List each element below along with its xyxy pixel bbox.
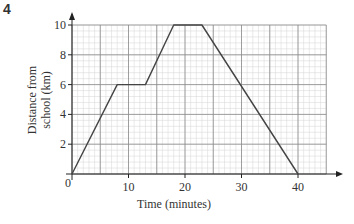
y-axis-label-line: Distance from <box>25 65 39 134</box>
x-tick-label: 40 <box>292 180 304 194</box>
x-axis-arrow-icon <box>336 171 343 177</box>
y-axis-label-line: school (km) <box>39 71 53 129</box>
y-axis-label: Distance fromschool (km) <box>25 65 53 134</box>
y-tick-label: 8 <box>60 48 66 62</box>
x-axis-label: Time (minutes) <box>137 197 211 211</box>
axes <box>66 12 343 180</box>
x-tick-label: 20 <box>179 180 191 194</box>
x-tick-label: 30 <box>236 180 248 194</box>
y-tick-label: 4 <box>60 107 66 121</box>
y-tick-label: 2 <box>60 137 66 151</box>
x-tick-label: 10 <box>123 180 135 194</box>
y-tick-label: 10 <box>54 18 66 32</box>
distance-time-graph: 246810102030400 Time (minutes)Distance f… <box>0 0 354 224</box>
y-tick-label: 6 <box>60 78 66 92</box>
origin-label: 0 <box>65 176 71 190</box>
tick-labels: 246810102030400 <box>54 18 304 194</box>
y-axis-arrow-icon <box>69 12 75 20</box>
